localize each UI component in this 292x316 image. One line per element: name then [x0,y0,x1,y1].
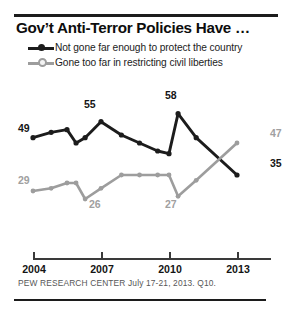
x-axis-label-2010: 2010 [158,263,182,275]
data-point [31,189,36,194]
data-point [194,178,199,183]
chart-legend: Not gone far enough to protect the count… [28,40,278,70]
data-point [194,135,199,140]
chart-card: Gov’t Anti-Terror Policies Have … Not go… [0,0,292,316]
data-point [98,119,103,124]
data-point [155,148,160,153]
legend-swatch-dark-line-icon [28,42,54,53]
bottom-divider [14,299,266,301]
value-label-49: 49 [18,122,30,134]
data-point [137,173,142,178]
data-point [167,173,172,178]
source-note: PEW RESEARCH CENTER July 17-21, 2013. Q1… [18,278,216,288]
data-point [99,186,104,191]
x-axis-label-2013: 2013 [226,263,250,275]
x-axis-line [33,258,271,260]
top-divider [14,14,278,17]
value-label-26: 26 [89,198,101,210]
value-label-55: 55 [84,98,96,110]
x-axis-label-2007: 2007 [90,263,114,275]
legend-label-not-gone-far-enough: Not gone far enough to protect the count… [55,42,242,54]
value-label-47: 47 [270,127,282,139]
x-axis-tick-2010 [169,252,171,259]
data-point [83,135,88,140]
data-point [73,140,78,145]
data-point [155,173,160,178]
series-line-dark [33,114,237,175]
data-point [166,151,171,156]
data-point [65,181,70,186]
data-point [175,111,180,116]
legend-label-gone-too-far: Gone too far in restricting civil libert… [55,57,223,69]
data-point [119,173,124,178]
value-label-29: 29 [18,174,30,186]
x-axis-tick-2007 [101,252,103,259]
data-point [49,130,54,135]
value-label-35: 35 [270,157,282,169]
data-point [137,140,142,145]
x-axis-tick-2004 [33,252,35,259]
legend-item-not-gone-far-enough[interactable]: Not gone far enough to protect the count… [28,40,278,55]
legend-swatch-gray-line-icon [28,57,54,68]
series-line-gray [33,143,237,199]
x-axis-tick-2013 [237,252,239,259]
chart-title: Gov’t Anti-Terror Policies Have … [16,19,284,36]
value-label-58: 58 [165,89,177,101]
x-axis-label-2004: 2004 [22,263,46,275]
data-point [49,186,54,191]
data-point [119,132,124,137]
data-point [235,141,240,146]
data-point [30,135,35,140]
data-point [64,127,69,132]
value-label-27: 27 [165,198,177,210]
data-point [74,181,79,186]
data-point [83,197,88,202]
data-point [234,172,239,177]
legend-item-gone-too-far[interactable]: Gone too far in restricting civil libert… [28,55,278,70]
